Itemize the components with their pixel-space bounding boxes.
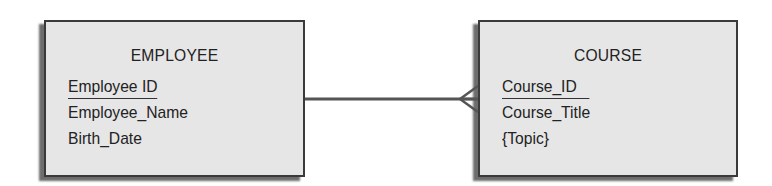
relationship-connector[interactable] bbox=[0, 0, 772, 186]
crows-foot-icon bbox=[460, 86, 478, 112]
